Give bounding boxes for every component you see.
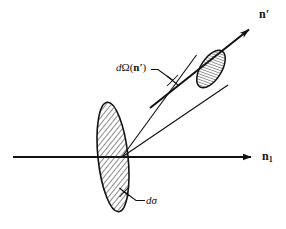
scattered-direction-symbol: n [259, 7, 266, 21]
scattering-diagram-figure: n′ n1 dΩ(n′) dσ [0, 0, 286, 229]
solid-angle-close-paren: ) [143, 61, 147, 73]
scattered-direction-label: n′ [259, 8, 269, 20]
diagram-canvas [0, 0, 286, 229]
incident-direction-symbol: n [262, 149, 269, 163]
solid-angle-label: dΩ(n′) [116, 62, 146, 73]
solid-angle-leader [151, 70, 178, 87]
incident-direction-subscript: 1 [269, 155, 273, 164]
target-cross-section-ellipse [92, 101, 133, 214]
scattered-direction-prime: ′ [266, 7, 269, 21]
omega-symbol: Ω [122, 61, 130, 73]
incident-direction-label: n1 [262, 150, 273, 164]
cross-section-label: dσ [146, 195, 157, 206]
detector-aperture-ellipse [191, 46, 231, 93]
